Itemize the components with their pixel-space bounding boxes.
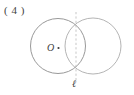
center-point-dot (57, 47, 59, 49)
item-number-label: ( 4 ) (4, 5, 25, 16)
geometry-figure: ( 4 ) O ℓ (0, 0, 134, 95)
center-point-label: O (47, 43, 54, 53)
line-label: ℓ (72, 79, 76, 89)
